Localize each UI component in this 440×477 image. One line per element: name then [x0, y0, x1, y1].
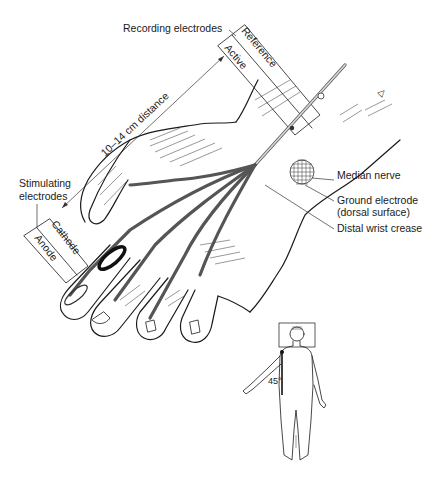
patient-position-inset — [243, 323, 326, 460]
label-distance: 10–14 cm distance — [98, 89, 171, 158]
leader-distal-wrist-crease — [265, 185, 334, 229]
label-ground-1: Ground electrode — [337, 194, 418, 206]
label-stimulating-2: electrodes — [19, 190, 67, 202]
leader-ground — [305, 185, 334, 201]
label-angle: 45° — [268, 376, 282, 386]
label-ground-2: (dorsal surface) — [337, 206, 410, 218]
hand-outline — [60, 80, 300, 342]
leader-median-nerve — [312, 178, 334, 180]
label-distal-wrist-crease: Distal wrist crease — [337, 222, 422, 234]
label-anode: Anode — [32, 232, 60, 263]
ground-electrode — [290, 160, 314, 184]
svg-text:△: △ — [377, 86, 389, 98]
recording-electrode-box — [218, 25, 320, 135]
nerve-conduction-diagram: Reference Active Recording electrodes 10… — [0, 0, 440, 477]
median-nerve — [70, 65, 345, 318]
label-median-nerve: Median nerve — [337, 169, 401, 181]
label-recording-electrodes: Recording electrodes — [123, 22, 222, 34]
label-stimulating-1: Stimulating — [19, 177, 71, 189]
